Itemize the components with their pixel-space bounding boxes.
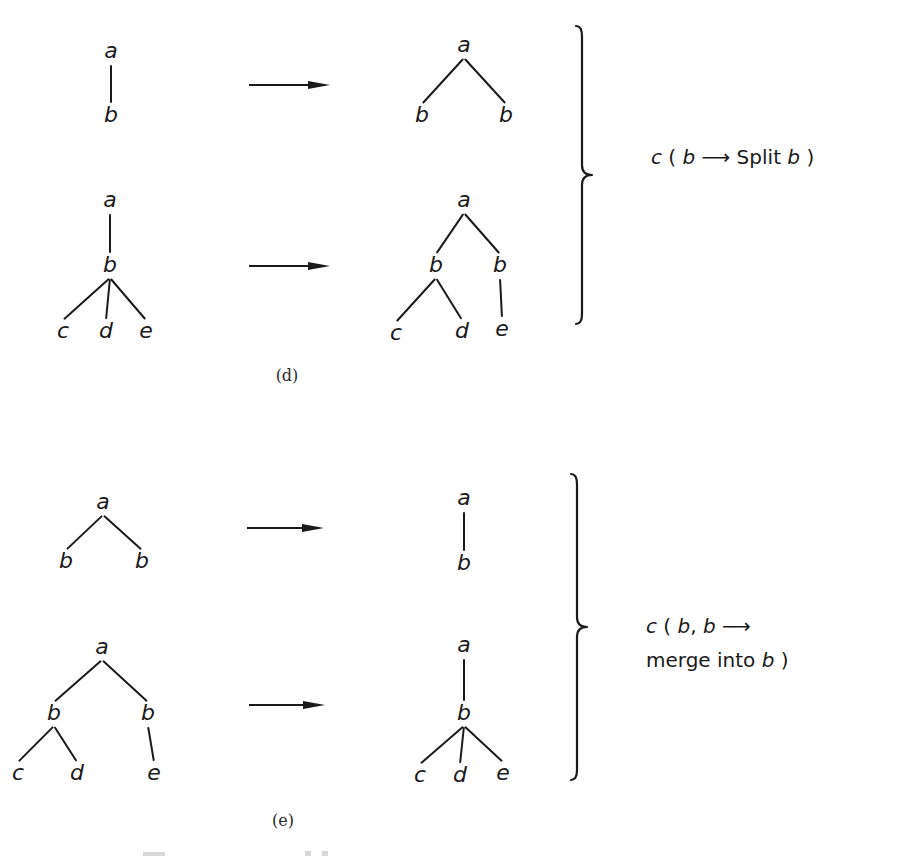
tree-edge bbox=[423, 59, 462, 102]
rule-text-segment: Split bbox=[730, 145, 787, 169]
panel-d-tree-1-before: ab bbox=[104, 38, 118, 127]
panel-e-tree-2-before: abbcde bbox=[12, 634, 161, 785]
rule-text-segment: ) bbox=[800, 145, 814, 169]
transformation-arrows bbox=[247, 81, 330, 709]
rule-line: merge into b ) bbox=[646, 648, 789, 672]
tree-node-d: d bbox=[99, 318, 114, 343]
tree-edge bbox=[106, 280, 110, 318]
tree-edge bbox=[19, 727, 52, 760]
panel-d-brace bbox=[576, 26, 592, 324]
arrow-head-icon bbox=[308, 81, 330, 89]
tree-node-e: e bbox=[147, 760, 161, 785]
rule-text-segment: ) bbox=[774, 648, 788, 672]
panel-e-brace bbox=[571, 474, 587, 780]
tree-node-b: b bbox=[493, 252, 507, 277]
arrow-head-icon bbox=[308, 262, 330, 270]
tree-node-d: d bbox=[453, 762, 468, 787]
tree-edge bbox=[56, 661, 101, 700]
tree-node-e: e bbox=[496, 760, 510, 785]
tree-node-c: c bbox=[390, 320, 402, 345]
panel-e-tree-1-before: abb bbox=[59, 489, 149, 573]
tree-node-a: a bbox=[457, 632, 470, 657]
panel-e-tree-1-after: ab bbox=[457, 485, 471, 575]
tree-node-a: a bbox=[103, 187, 116, 212]
panel-e-arrow-1 bbox=[247, 524, 324, 532]
tree-node-c: c bbox=[414, 762, 426, 787]
rule-symbol: b bbox=[678, 614, 691, 638]
tree-node-b: b bbox=[499, 102, 513, 127]
tree-edge bbox=[64, 279, 108, 318]
tree-edge bbox=[437, 280, 461, 319]
grouping-braces bbox=[571, 26, 592, 780]
tree-edge bbox=[148, 728, 153, 760]
panel-d-tree-2-after: abbcde bbox=[390, 187, 509, 345]
tree-node-b: b bbox=[103, 252, 117, 277]
cropped-caption-fragment bbox=[305, 851, 311, 856]
tree-edge bbox=[67, 516, 101, 548]
rule-text-segment: ( bbox=[662, 145, 683, 169]
panel-e-arrow-2 bbox=[249, 701, 325, 709]
tree-edge bbox=[465, 727, 501, 760]
panel-d-arrow-1 bbox=[249, 81, 330, 89]
arrow-icon: ⟶ bbox=[722, 614, 751, 638]
tree-node-b: b bbox=[47, 700, 61, 725]
tree-node-c: c bbox=[12, 760, 24, 785]
tree-node-e: e bbox=[495, 316, 509, 341]
rule-line: c ( b ⟶ Split b ) bbox=[651, 145, 814, 169]
tree-edge bbox=[104, 516, 140, 548]
tree-node-b: b bbox=[104, 102, 118, 127]
rule-text-segment: ( bbox=[657, 614, 678, 638]
panel-e-rule-text: c ( b, b ⟶merge into b ) bbox=[646, 614, 789, 672]
tree-node-a: a bbox=[95, 634, 108, 659]
rule-text-segment: , bbox=[690, 614, 703, 638]
rule-symbol: b bbox=[787, 145, 800, 169]
rule-text-segment: merge into bbox=[646, 648, 762, 672]
tree-node-e: e bbox=[139, 318, 153, 343]
arrow-head-icon bbox=[302, 524, 324, 532]
tree-transformation-figure: ababbabcdeabbcdeabbababbcdeabcde (d) (e)… bbox=[0, 0, 898, 856]
rule-symbol: c bbox=[651, 145, 662, 169]
tree-node-b: b bbox=[457, 550, 471, 575]
rule-symbol: b bbox=[683, 145, 696, 169]
tree-edge bbox=[500, 280, 502, 316]
tree-edge bbox=[465, 215, 498, 253]
tree-node-b: b bbox=[457, 700, 471, 725]
tree-node-a: a bbox=[457, 32, 470, 57]
tree-node-b: b bbox=[415, 102, 429, 127]
tree-edge bbox=[465, 59, 504, 102]
tree-edge bbox=[103, 661, 146, 700]
tree-node-b: b bbox=[135, 548, 149, 573]
tree-edge bbox=[437, 215, 463, 253]
tree-node-b: b bbox=[59, 548, 73, 573]
tree-node-a: a bbox=[457, 187, 470, 212]
panel-e-label: (e) bbox=[272, 811, 294, 830]
cropped-caption-fragment bbox=[143, 852, 165, 856]
tree-node-a: a bbox=[457, 485, 470, 510]
tree-node-c: c bbox=[57, 318, 69, 343]
tree-node-a: a bbox=[96, 489, 109, 514]
rule-symbol: b bbox=[703, 614, 716, 638]
panel-e-tree-2-after: abcde bbox=[414, 632, 510, 787]
panel-d-tree-2-before: abcde bbox=[57, 187, 153, 343]
rule-line: c ( b, b ⟶ bbox=[646, 614, 751, 638]
tree-edge bbox=[460, 728, 464, 762]
panel-d-label: (d) bbox=[276, 366, 299, 385]
tree-edge bbox=[55, 728, 76, 761]
panel-d-arrow-2 bbox=[249, 262, 330, 270]
tree-edge bbox=[422, 727, 463, 762]
tree-edge bbox=[397, 279, 434, 320]
tree-edge bbox=[111, 280, 144, 319]
cropped-caption-fragment bbox=[322, 851, 328, 856]
rule-symbol: c bbox=[646, 614, 657, 638]
panel-d-rule-text: c ( b ⟶ Split b ) bbox=[651, 145, 814, 169]
trees-layer: ababbabcdeabbcdeabbababbcdeabcde bbox=[12, 32, 513, 787]
tree-node-d: d bbox=[455, 318, 470, 343]
arrow-icon: ⟶ bbox=[702, 145, 731, 169]
tree-node-b: b bbox=[429, 252, 443, 277]
panel-d-tree-1-after: abb bbox=[415, 32, 513, 127]
tree-node-a: a bbox=[104, 38, 117, 63]
rule-symbol: b bbox=[762, 648, 775, 672]
tree-node-d: d bbox=[70, 760, 85, 785]
tree-node-b: b bbox=[141, 700, 155, 725]
arrow-head-icon bbox=[303, 701, 325, 709]
